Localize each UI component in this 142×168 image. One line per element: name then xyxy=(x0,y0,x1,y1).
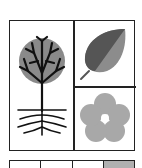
bottom-row xyxy=(9,160,135,168)
figure-grid xyxy=(9,20,135,151)
flower-icon xyxy=(75,88,135,150)
leaf-icon xyxy=(75,23,135,85)
row-cell-4 xyxy=(104,161,134,168)
row-cell-1 xyxy=(10,161,41,168)
panel-flower xyxy=(75,88,135,150)
row-cell-2 xyxy=(41,161,72,168)
panel-tree xyxy=(12,23,72,149)
row-cell-3 xyxy=(73,161,104,168)
tree-with-roots-icon xyxy=(12,23,72,149)
panel-leaf xyxy=(75,23,135,85)
